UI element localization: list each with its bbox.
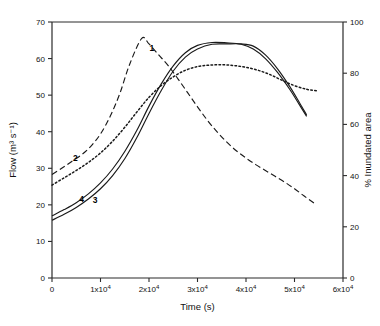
left-tick-label: 50 bbox=[36, 91, 45, 100]
right-tick-label: 100 bbox=[350, 18, 364, 27]
right-tick-label: 20 bbox=[350, 223, 359, 232]
right-tick-label: 40 bbox=[350, 172, 359, 181]
curve-label-3: 3 bbox=[93, 195, 98, 205]
left-tick-label: 10 bbox=[36, 237, 45, 246]
right-tick-label: 60 bbox=[350, 120, 359, 129]
left-tick-label: 60 bbox=[36, 55, 45, 64]
y2-axis-title: % Inundated area bbox=[362, 112, 373, 188]
flow-inundation-chart: 010203040506070 020406080100 01x1042x104… bbox=[0, 0, 380, 326]
left-tick-label: 70 bbox=[36, 18, 45, 27]
curve-label-1: 1 bbox=[150, 43, 155, 53]
curve-label-4: 4 bbox=[79, 194, 84, 204]
bottom-tick-label: 0 bbox=[50, 285, 55, 294]
left-tick-label: 40 bbox=[36, 128, 45, 137]
y-axis-title: Flow (m³ s⁻¹) bbox=[7, 122, 18, 178]
left-tick-label: 30 bbox=[36, 164, 45, 173]
right-tick-label: 80 bbox=[350, 69, 359, 78]
left-tick-label: 20 bbox=[36, 201, 45, 210]
left-tick-label: 0 bbox=[41, 274, 46, 283]
chart-svg: 010203040506070 020406080100 01x1042x104… bbox=[0, 0, 380, 326]
x-axis-title: Time (s) bbox=[180, 301, 214, 312]
curve-label-2: 2 bbox=[73, 153, 78, 163]
right-tick-label: 0 bbox=[350, 274, 355, 283]
